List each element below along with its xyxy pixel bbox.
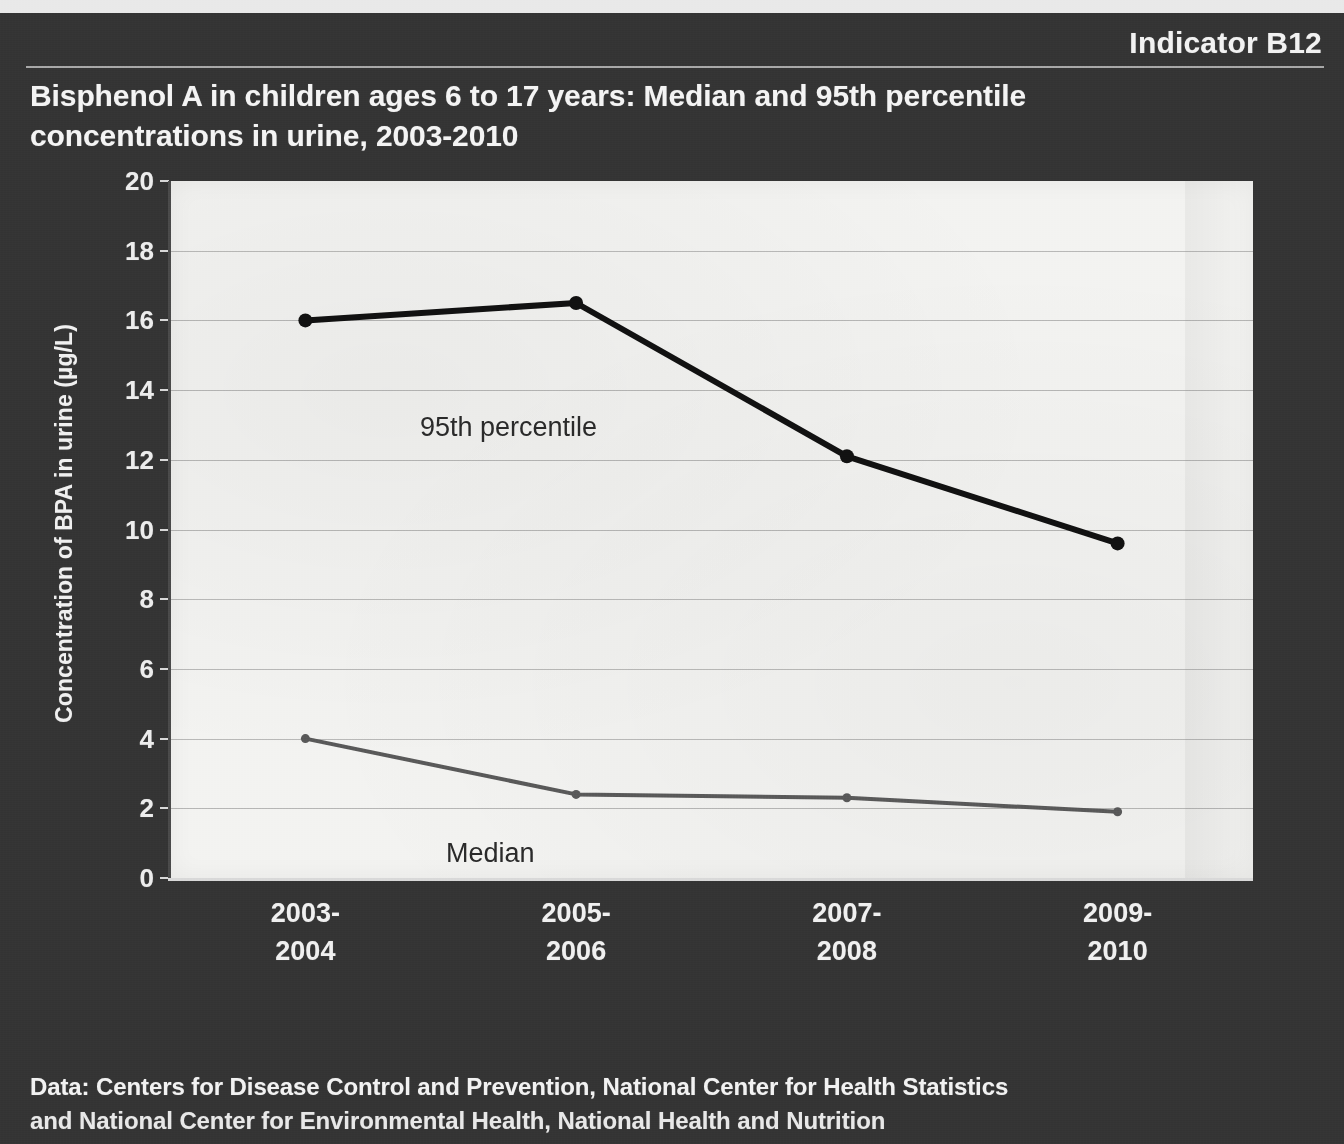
x-axis-tick-line: 2009- <box>1018 894 1218 932</box>
series-layer <box>170 181 1253 878</box>
chart: 20181614121086420 2003-20042005-20062007… <box>0 160 1344 970</box>
series-label-95th-percentile: 95th percentile <box>420 412 597 443</box>
data-point-marker <box>298 313 312 327</box>
x-axis-tick-label: 2009-2010 <box>1018 894 1218 970</box>
x-axis-tick-label: 2003-2004 <box>205 894 405 970</box>
x-axis-tick-line: 2004 <box>205 932 405 970</box>
y-axis-tick-label: 0 <box>34 863 154 894</box>
top-white-strip <box>0 0 1344 13</box>
x-axis-tick-line: 2010 <box>1018 932 1218 970</box>
data-point-marker <box>1111 536 1125 550</box>
data-point-marker <box>301 734 310 743</box>
source-line-2: and National Center for Environmental He… <box>30 1104 1344 1138</box>
x-axis-tick-label: 2005-2006 <box>476 894 676 970</box>
x-axis-tick-line: 2008 <box>747 932 947 970</box>
source-line-1: Data: Centers for Disease Control and Pr… <box>30 1070 1344 1104</box>
data-point-marker <box>840 449 854 463</box>
data-point-marker <box>1113 807 1122 816</box>
series-label-median: Median <box>446 838 535 869</box>
x-axis-line <box>168 878 1253 881</box>
indicator-label: Indicator B12 <box>1129 26 1322 60</box>
x-axis-tick-label: 2007-2008 <box>747 894 947 970</box>
slide-page: Indicator B12 Bisphenol A in children ag… <box>0 0 1344 1144</box>
page-title: Bisphenol A in children ages 6 to 17 yea… <box>30 76 1230 156</box>
series-line <box>305 739 1117 812</box>
source-footer: Data: Centers for Disease Control and Pr… <box>0 1070 1344 1138</box>
y-axis-tick-label: 20 <box>34 166 154 197</box>
header-divider <box>26 66 1324 68</box>
data-point-marker <box>569 296 583 310</box>
x-axis-tick-line: 2007- <box>747 894 947 932</box>
x-axis-tick-line: 2006 <box>476 932 676 970</box>
data-point-marker <box>842 793 851 802</box>
y-axis-title: Concentration of BPA in urine (µg/L) <box>51 244 78 804</box>
x-axis-tick-line: 2005- <box>476 894 676 932</box>
data-point-marker <box>572 790 581 799</box>
x-axis-tick-line: 2003- <box>205 894 405 932</box>
